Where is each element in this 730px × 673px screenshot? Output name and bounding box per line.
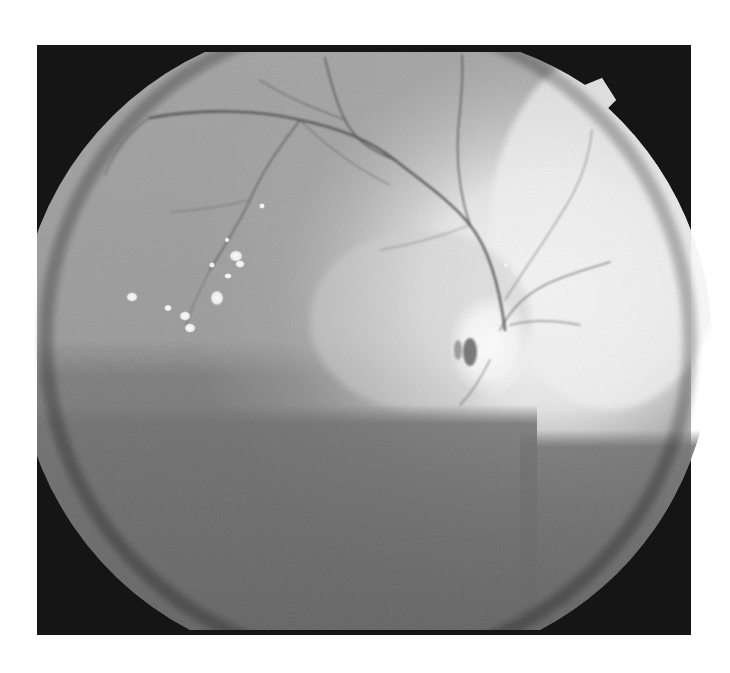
fundus-image	[0, 0, 730, 673]
retina-field	[37, 18, 730, 662]
fundus-figure: retinal fundus photograph (grayscale)	[0, 0, 730, 673]
